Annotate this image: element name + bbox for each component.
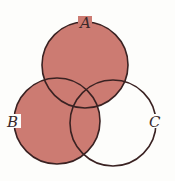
set-a-label: A xyxy=(78,14,91,32)
venn-diagram: A B C xyxy=(0,0,175,181)
set-c-label: C xyxy=(149,113,161,131)
set-b-label: B xyxy=(6,113,18,131)
